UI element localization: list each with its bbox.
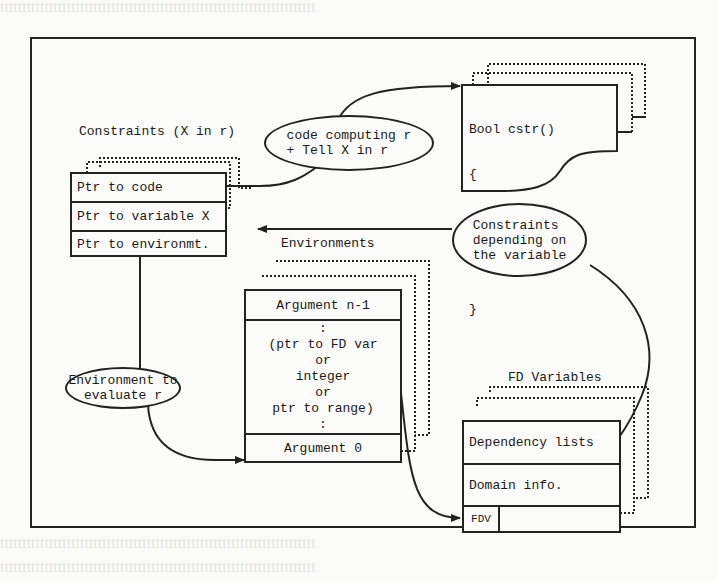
code-computing-bubble: code computing r + Tell X in r <box>264 115 434 171</box>
code-line: Bool cstr() <box>469 122 555 137</box>
fd-row-dependency-lists: Dependency lists <box>464 422 619 465</box>
env-mid-line: : <box>319 417 327 433</box>
dependent-constraints-bubble: Constraints depending on the variable <box>452 203 587 277</box>
constraints-row-variable: Ptr to variable X <box>72 203 225 232</box>
env-mid-line: : <box>319 321 327 337</box>
env-mid-line: integer <box>296 369 351 385</box>
fd-row-domain-info: Domain info. <box>464 465 619 507</box>
env-mid-line: or <box>315 353 331 369</box>
dependents-line3: the variable <box>473 248 567 263</box>
env-bubble-line2: evaluate r <box>68 388 177 403</box>
constraints-row-environment: Ptr to environmt. <box>72 232 225 257</box>
env-mid-line: or <box>315 385 331 401</box>
constraints-row-code: Ptr to code <box>72 174 225 203</box>
env-row-arguments-middle: : (ptr to FD var or integer or ptr to ra… <box>246 321 400 435</box>
code-line: { <box>469 167 555 182</box>
env-row-argument-0: Argument 0 <box>246 435 400 461</box>
fd-variable-record: Dependency lists Domain info. FDV <box>462 420 621 533</box>
code-bubble-line2: + Tell X in r <box>287 143 412 158</box>
code-line: } <box>469 302 555 317</box>
code-bubble-line1: code computing r <box>287 128 412 143</box>
constraints-record: Ptr to code Ptr to variable X Ptr to env… <box>70 172 227 257</box>
environment-bubble: Environment to evaluate r <box>65 367 181 409</box>
fd-variables-title: FD Variables <box>508 370 602 385</box>
env-bubble-line1: Environment to <box>68 373 177 388</box>
fdv-cell: FDV <box>464 507 500 531</box>
env-mid-line: (ptr to FD var <box>268 337 377 353</box>
env-mid-line: ptr to range) <box>272 401 373 417</box>
constraints-title: Constraints (X in r) <box>79 124 235 139</box>
environments-title: Environments <box>281 236 375 251</box>
environment-record: Argument n-1 : (ptr to FD var or integer… <box>244 289 402 463</box>
env-row-argument-n-1: Argument n-1 <box>246 291 400 321</box>
fd-row-fdv: FDV <box>464 507 619 531</box>
dependents-line1: Constraints <box>473 218 567 233</box>
dependents-line2: depending on <box>473 233 567 248</box>
